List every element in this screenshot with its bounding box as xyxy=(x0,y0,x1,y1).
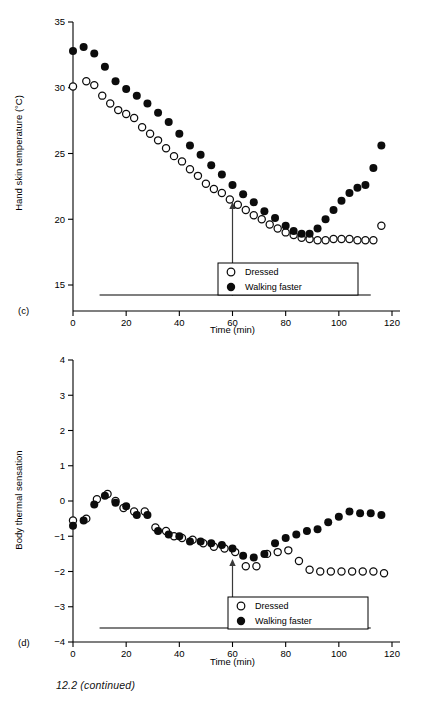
data-point xyxy=(327,568,334,575)
legend-marker-walking-faster xyxy=(237,617,245,625)
series-walking-faster xyxy=(69,43,385,238)
data-point xyxy=(282,222,290,230)
data-point xyxy=(258,216,265,223)
x-axis-tick-label: 100 xyxy=(331,317,347,328)
data-point xyxy=(197,151,205,159)
data-point xyxy=(298,230,306,238)
legend-marker-walking-faster xyxy=(227,283,235,291)
y-axis-tick-label: 25 xyxy=(54,148,65,159)
data-point xyxy=(356,509,364,517)
data-point xyxy=(165,118,173,126)
x-axis-title: Time (min) xyxy=(210,656,255,667)
y-axis-tick-label: 2 xyxy=(60,425,65,436)
data-point xyxy=(197,538,205,546)
data-point xyxy=(314,224,322,232)
y-axis-tick-label: 3 xyxy=(60,390,65,401)
data-point xyxy=(112,499,120,507)
data-point xyxy=(250,212,257,219)
data-point xyxy=(370,237,377,244)
data-point xyxy=(101,492,109,500)
data-point xyxy=(242,206,249,213)
data-point xyxy=(90,501,98,509)
y-axis-title: Hand skin temperature (°C) xyxy=(13,95,24,211)
data-point xyxy=(353,184,361,192)
data-point xyxy=(218,189,225,196)
data-point xyxy=(80,516,88,524)
data-point xyxy=(295,557,302,564)
panel-letter: (c) xyxy=(18,305,29,316)
data-point xyxy=(146,130,153,137)
panel-letter: (d) xyxy=(18,637,30,648)
data-point xyxy=(122,502,130,510)
data-point xyxy=(178,158,185,165)
x-axis-tick-label: 20 xyxy=(121,317,132,328)
data-point xyxy=(338,235,345,242)
event-arrow-head xyxy=(229,559,235,566)
x-axis-title: Time (min) xyxy=(210,324,255,335)
x-axis-tick-label: 80 xyxy=(280,317,291,328)
data-point xyxy=(131,114,138,121)
x-axis-tick-label: 20 xyxy=(121,648,132,659)
data-point xyxy=(369,164,377,172)
x-axis-tick-label: 120 xyxy=(384,317,400,328)
x-axis-tick-label: 40 xyxy=(174,648,185,659)
data-point xyxy=(346,235,353,242)
data-point xyxy=(380,570,387,577)
data-point xyxy=(202,180,209,187)
data-point xyxy=(239,552,247,560)
data-point xyxy=(250,553,258,561)
y-axis-tick-label: −1 xyxy=(54,531,65,542)
data-point xyxy=(175,532,183,540)
data-point xyxy=(345,508,353,516)
data-point xyxy=(290,227,298,235)
data-point xyxy=(359,568,366,575)
data-point xyxy=(314,237,321,244)
data-point xyxy=(90,50,98,58)
data-point xyxy=(250,198,258,206)
data-point xyxy=(112,77,120,85)
data-point xyxy=(133,511,141,519)
data-point xyxy=(271,214,279,222)
data-point xyxy=(229,545,237,553)
data-point xyxy=(377,142,385,150)
data-point xyxy=(349,568,356,575)
data-point xyxy=(154,109,162,117)
data-point xyxy=(186,166,193,173)
panel-c-plot: 1520253035020406080100120Time (min)Hand … xyxy=(0,0,430,345)
data-point xyxy=(242,563,249,570)
data-point xyxy=(122,85,130,93)
x-axis-tick-label: 120 xyxy=(384,648,400,659)
data-point xyxy=(317,568,324,575)
panel-d: −4−3−2−101234020406080100120Time (min)Bo… xyxy=(0,345,430,675)
data-point xyxy=(123,110,130,117)
data-point xyxy=(274,225,281,232)
legend-marker-dressed xyxy=(227,268,235,276)
y-axis-tick-label: 1 xyxy=(60,460,65,471)
x-axis-tick-label: 40 xyxy=(174,317,185,328)
data-point xyxy=(69,83,76,90)
data-point xyxy=(165,530,173,538)
data-point xyxy=(322,237,329,244)
data-point xyxy=(239,190,247,198)
x-axis-tick-label: 100 xyxy=(331,648,347,659)
data-point xyxy=(335,513,343,521)
legend-label-dressed: Dressed xyxy=(245,267,279,277)
legend-label-walking-faster: Walking faster xyxy=(245,282,302,292)
data-point xyxy=(253,563,260,570)
data-point xyxy=(337,197,345,205)
data-point xyxy=(170,153,177,160)
data-point xyxy=(154,137,161,144)
data-point xyxy=(218,541,226,549)
data-point xyxy=(226,196,233,203)
data-point xyxy=(361,181,369,189)
legend-label-walking-faster: Walking faster xyxy=(255,616,312,626)
y-axis-tick-label: 15 xyxy=(54,279,65,290)
data-point xyxy=(186,142,194,150)
data-point xyxy=(345,189,353,197)
data-point xyxy=(303,527,311,535)
data-point xyxy=(229,181,237,189)
data-point xyxy=(362,237,369,244)
data-point xyxy=(377,511,385,519)
data-point xyxy=(324,518,332,526)
data-point xyxy=(101,63,109,71)
